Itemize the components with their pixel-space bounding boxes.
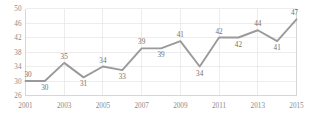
x-axis-tick-label: 2015 xyxy=(289,102,304,110)
data-point-label: 41 xyxy=(274,44,282,52)
x-axis-tick-label: 2013 xyxy=(251,102,266,110)
data-point-label: 47 xyxy=(291,9,299,17)
data-point-label: 35 xyxy=(61,53,69,61)
y-axis-tick-labels: 26303438424650 xyxy=(14,5,22,100)
data-point-label: 33 xyxy=(119,73,127,81)
x-axis-tick-label: 2011 xyxy=(212,102,227,110)
data-point-label: 34 xyxy=(99,57,107,65)
y-axis-tick-label: 46 xyxy=(14,20,22,28)
data-point-label: 41 xyxy=(177,31,185,39)
y-axis-tick-label: 50 xyxy=(14,5,22,13)
y-axis-tick-label: 42 xyxy=(14,34,22,42)
y-axis-tick-label: 26 xyxy=(14,92,22,100)
data-point-label: 30 xyxy=(41,84,49,92)
data-point-label: 39 xyxy=(157,51,165,59)
x-axis-tick-labels: 20012003200520072009201120132015 xyxy=(18,102,304,110)
y-axis-tick-label: 34 xyxy=(14,63,22,71)
x-axis-tick-label: 2005 xyxy=(96,102,111,110)
data-series-line xyxy=(26,19,297,81)
data-point-label: 42 xyxy=(235,41,243,49)
data-point-labels: 303035313433393941344242444147 xyxy=(24,9,298,92)
data-point-label: 30 xyxy=(24,71,32,79)
y-axis-tick-label: 38 xyxy=(14,49,22,57)
line-chart: 26303438424650 2001200320052007200920112… xyxy=(0,0,311,123)
series-path xyxy=(26,19,297,81)
y-axis-tick-label: 30 xyxy=(14,78,22,86)
x-axis-tick-label: 2009 xyxy=(173,102,188,110)
data-point-label: 31 xyxy=(80,80,88,88)
x-axis-tick-label: 2003 xyxy=(57,102,72,110)
data-point-label: 44 xyxy=(254,20,262,28)
data-point-label: 42 xyxy=(215,28,223,36)
x-axis-tick-label: 2001 xyxy=(18,102,33,110)
data-point-label: 39 xyxy=(138,38,146,46)
chart-plot-area: 26303438424650 2001200320052007200920112… xyxy=(0,0,311,123)
data-point-label: 34 xyxy=(196,70,204,78)
x-axis-tick-label: 2007 xyxy=(134,102,149,110)
